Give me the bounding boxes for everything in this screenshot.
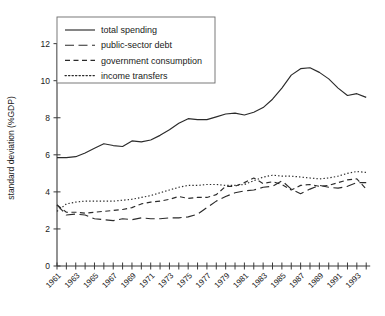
chart-legend: total spendingpublic-sector debtgovernme… — [57, 17, 215, 83]
legend-label-public-sector-debt: public-sector debt — [101, 40, 173, 50]
legend-label-income-transfers: income transfers — [101, 71, 168, 81]
y-tick-label: 2 — [45, 224, 50, 234]
y-tick-label: 6 — [45, 150, 50, 160]
y-tick-label: 4 — [45, 187, 50, 197]
line-chart: 024681012 196119631965196719691971197319… — [0, 0, 385, 316]
legend-label-government-consumption: government consumption — [101, 56, 202, 66]
y-tick-label: 8 — [45, 113, 50, 123]
y-tick-label: 0 — [45, 261, 50, 271]
legend-label-total-spending: total spending — [101, 25, 157, 35]
y-tick-label: 12 — [41, 39, 51, 49]
y-tick-label: 10 — [41, 76, 51, 86]
y-axis-title: standard deviation (%GDP) — [6, 96, 16, 200]
chart-container: 024681012 196119631965196719691971197319… — [0, 0, 385, 316]
